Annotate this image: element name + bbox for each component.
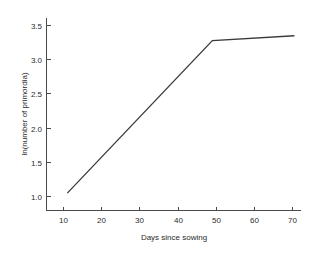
x-tick-label: 60: [250, 216, 259, 225]
x-tick-label: 70: [288, 216, 297, 225]
x-tick-label: 40: [174, 216, 183, 225]
chart-figure: 1.0 1.5 2.0 2.5 3.0 3.5 10 20 30 40 50 6…: [0, 0, 323, 255]
y-tick-label: 2.0: [31, 125, 43, 134]
x-tick-label: 20: [97, 216, 106, 225]
y-axis-title: ln(number of primordia): [20, 72, 29, 155]
chart-background: [0, 0, 323, 255]
y-tick-label: 1.0: [31, 193, 43, 202]
x-tick-label: 10: [59, 216, 68, 225]
x-axis-title: Days since sowing: [141, 233, 207, 242]
y-tick-label: 3.0: [31, 56, 43, 65]
y-tick-label: 3.5: [31, 22, 43, 31]
x-tick-label: 30: [135, 216, 144, 225]
x-tick-label: 50: [212, 216, 221, 225]
line-chart: 1.0 1.5 2.0 2.5 3.0 3.5 10 20 30 40 50 6…: [0, 0, 323, 255]
y-tick-label: 2.5: [31, 90, 43, 99]
y-tick-label: 1.5: [31, 159, 43, 168]
